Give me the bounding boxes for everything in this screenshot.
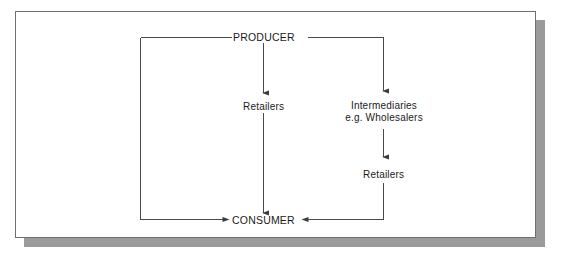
- node-producer: PRODUCER: [233, 32, 295, 43]
- diagram-canvas: PRODUCER Retailers Intermediaries e.g. W…: [0, 0, 562, 257]
- node-retailers-direct: Retailers: [243, 101, 284, 112]
- node-retailers-indirect: Retailers: [363, 169, 404, 180]
- diagram-frame: PRODUCER Retailers Intermediaries e.g. W…: [15, 11, 536, 238]
- edge-retailers2-to-consumer: [303, 183, 384, 220]
- node-intermediaries: Intermediaries e.g. Wholesalers: [344, 100, 424, 124]
- flow-connectors: [16, 12, 537, 239]
- node-intermediaries-line1: Intermediaries: [344, 100, 424, 112]
- edge-producer-to-consumer: [141, 38, 229, 220]
- node-intermediaries-line2: e.g. Wholesalers: [344, 112, 424, 124]
- node-consumer: CONSUMER: [232, 215, 295, 226]
